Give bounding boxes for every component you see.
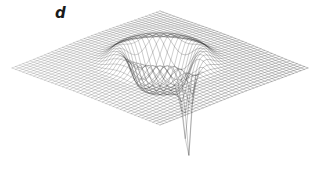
- figure-root: d: [0, 0, 322, 193]
- mesh-surface-plot: [0, 0, 322, 193]
- panel-label: d: [55, 6, 66, 21]
- mesh-wireframe: [12, 11, 308, 156]
